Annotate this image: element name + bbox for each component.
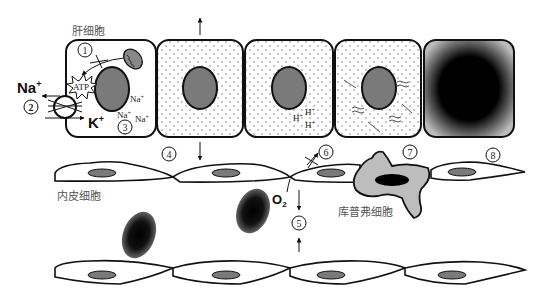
endothelial-label: 内皮细胞: [57, 189, 101, 203]
liver-sinusoid-diagram: 肝细胞 ATP Na+ Na+ Na+ Na+ K+: [0, 0, 542, 298]
marker-4: 4: [167, 149, 172, 160]
svg-text:ATP: ATP: [73, 82, 89, 92]
hepatocyte-enzyme-release: [335, 40, 421, 137]
marker-3: 3: [123, 122, 128, 133]
o2-label: O2: [272, 192, 287, 209]
marker-8: 8: [491, 150, 496, 161]
hepatocyte-necrotic: [424, 40, 514, 137]
na-ion-label: Na+: [17, 79, 41, 96]
kupffer-label: 库普弗细胞: [338, 205, 393, 219]
marker-5: 5: [297, 218, 302, 229]
marker-7: 7: [408, 147, 413, 158]
marker-6: 6: [324, 147, 329, 158]
marker-2: 2: [29, 102, 34, 113]
hepatocyte-acidosis: H+ H+ H+: [245, 40, 333, 137]
blood-cell: [116, 207, 162, 263]
hepatocyte-label: 肝细胞: [72, 25, 105, 38]
hepatocyte-swollen: [157, 40, 243, 137]
marker-1: 1: [83, 45, 88, 56]
nucleus: [95, 67, 129, 111]
blood-cell: [230, 184, 276, 238]
